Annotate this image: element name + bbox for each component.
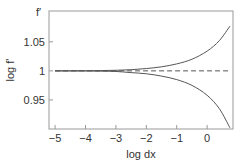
x-tick-label: −1 bbox=[170, 132, 183, 144]
x-tick-label: −3 bbox=[110, 132, 123, 144]
x-tick-label: 0 bbox=[204, 132, 210, 144]
x-axis-label: log dx bbox=[126, 148, 156, 160]
x-tick-label: −2 bbox=[140, 132, 153, 144]
series-upper bbox=[55, 26, 230, 71]
series-lower bbox=[55, 71, 230, 128]
x-axis-ticks: −5−4−3−2−10 bbox=[49, 125, 210, 144]
corner-label: f′ bbox=[36, 6, 41, 18]
y-tick-label: 0.95 bbox=[24, 94, 45, 106]
chart: −5−4−3−2−10 0.9511.05 f′ log dx log f' bbox=[0, 0, 243, 165]
x-tick-label: −4 bbox=[79, 132, 92, 144]
y-axis-label: log f' bbox=[4, 59, 16, 82]
plot-frame bbox=[49, 11, 233, 129]
y-tick-label: 1 bbox=[39, 65, 45, 77]
series-layer bbox=[55, 26, 230, 128]
y-tick-label: 1.05 bbox=[24, 36, 45, 48]
x-tick-label: −5 bbox=[49, 132, 62, 144]
